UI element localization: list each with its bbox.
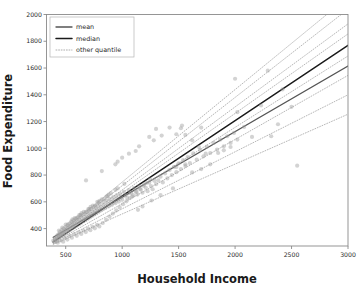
scatter-point bbox=[242, 125, 246, 129]
scatter-point bbox=[127, 152, 131, 156]
scatter-point bbox=[154, 182, 158, 186]
scatter-point bbox=[190, 170, 194, 174]
scatter-point bbox=[280, 87, 284, 91]
y-tick-label: 1000 bbox=[26, 145, 42, 152]
scatter-point bbox=[188, 161, 192, 165]
scatter-point bbox=[160, 134, 164, 138]
scatter-point bbox=[222, 148, 226, 152]
scatter-point bbox=[199, 167, 203, 171]
scatter-point bbox=[161, 180, 165, 184]
scatter-point bbox=[181, 158, 185, 162]
scatter-point bbox=[158, 175, 162, 179]
scatter-point bbox=[174, 170, 178, 174]
scatter-point bbox=[205, 145, 209, 149]
scatter-point bbox=[84, 230, 88, 234]
scatter-point bbox=[113, 162, 117, 166]
scatter-point bbox=[276, 122, 280, 126]
scatter-point bbox=[69, 219, 73, 223]
scatter-point bbox=[104, 218, 108, 222]
scatter-point bbox=[266, 69, 270, 73]
scatter-point bbox=[232, 131, 236, 135]
y-tick-label: 1600 bbox=[26, 64, 42, 71]
scatter-point bbox=[84, 210, 88, 214]
scatter-point bbox=[124, 199, 128, 203]
scatter-point bbox=[177, 161, 181, 165]
scatter-point bbox=[170, 173, 174, 177]
scatter-point bbox=[191, 151, 195, 155]
scatter-point bbox=[147, 135, 151, 139]
scatter-point bbox=[154, 127, 158, 131]
scatter-point bbox=[158, 193, 162, 197]
scatter-point bbox=[145, 189, 149, 193]
scatter-point bbox=[233, 77, 237, 81]
x-tick-label: 2500 bbox=[284, 251, 300, 258]
scatter-point bbox=[228, 145, 232, 149]
x-tick-label: 3000 bbox=[340, 251, 356, 258]
scatter-point bbox=[120, 156, 124, 160]
scatter-point bbox=[93, 203, 97, 207]
chart-figure: 50010001500200025003000 4006008001000120… bbox=[0, 0, 358, 289]
scatter-point bbox=[66, 222, 70, 226]
scatter-point bbox=[140, 204, 144, 208]
scatter-point bbox=[235, 138, 239, 142]
scatter-point bbox=[179, 167, 183, 171]
legend-label: other quantile bbox=[76, 46, 121, 54]
scatter-point bbox=[174, 165, 178, 169]
scatter-point bbox=[88, 228, 92, 232]
x-axis-label: Household Income bbox=[137, 272, 257, 286]
scatter-point bbox=[225, 134, 229, 138]
chart-legend[interactable]: meanmedianother quantile bbox=[50, 17, 134, 57]
scatter-point bbox=[97, 224, 101, 228]
y-tick-label: 400 bbox=[30, 225, 42, 232]
scatter-point bbox=[57, 229, 61, 233]
scatter-point bbox=[183, 133, 187, 137]
scatter-point bbox=[114, 208, 118, 212]
scatter-point bbox=[116, 186, 120, 190]
scatter-point bbox=[228, 141, 232, 145]
scatter-point bbox=[61, 240, 65, 244]
scatter-point bbox=[100, 169, 104, 173]
scatter-point bbox=[195, 158, 199, 162]
scatter-point bbox=[289, 105, 293, 109]
scatter-point bbox=[269, 134, 273, 138]
y-axis-label: Food Expenditure bbox=[1, 74, 15, 188]
y-tick-label: 800 bbox=[30, 171, 42, 178]
scatter-point bbox=[222, 144, 226, 148]
scatter-point bbox=[70, 236, 74, 240]
scatter-point bbox=[167, 125, 171, 129]
scatter-point bbox=[102, 197, 106, 201]
scatter-point bbox=[122, 182, 126, 186]
x-tick-label: 2000 bbox=[227, 251, 243, 258]
x-tick-label: 1000 bbox=[114, 251, 130, 258]
scatter-point bbox=[84, 178, 88, 182]
scatter-point bbox=[259, 103, 263, 107]
scatter-point bbox=[148, 178, 152, 182]
scatter-point bbox=[163, 171, 167, 175]
scatter-point bbox=[167, 168, 171, 172]
scatter-point bbox=[107, 214, 111, 218]
scatter-point bbox=[145, 181, 149, 185]
scatter-point bbox=[218, 138, 222, 142]
scatter-point bbox=[212, 141, 216, 145]
scatter-point bbox=[87, 207, 91, 211]
scatter-point bbox=[111, 212, 115, 216]
scatter-point bbox=[136, 208, 140, 212]
scatter-point bbox=[135, 190, 139, 194]
scatter-point bbox=[137, 144, 141, 148]
scatter-point bbox=[138, 187, 142, 191]
scatter-point bbox=[250, 135, 254, 139]
scatter-point bbox=[186, 155, 190, 159]
legend-label: median bbox=[76, 35, 100, 43]
scatter-point bbox=[152, 138, 156, 142]
scatter-point bbox=[120, 198, 124, 202]
scatter-point bbox=[208, 151, 212, 155]
scatter-point bbox=[165, 176, 169, 180]
scatter-point bbox=[101, 221, 105, 225]
scatter-point bbox=[109, 191, 113, 195]
scatter-point bbox=[190, 138, 194, 142]
scatter-point bbox=[204, 152, 208, 156]
scatter-point bbox=[171, 186, 175, 190]
scatter-point bbox=[197, 145, 201, 149]
x-tick-label: 500 bbox=[60, 251, 72, 258]
scatter-point bbox=[149, 198, 153, 202]
